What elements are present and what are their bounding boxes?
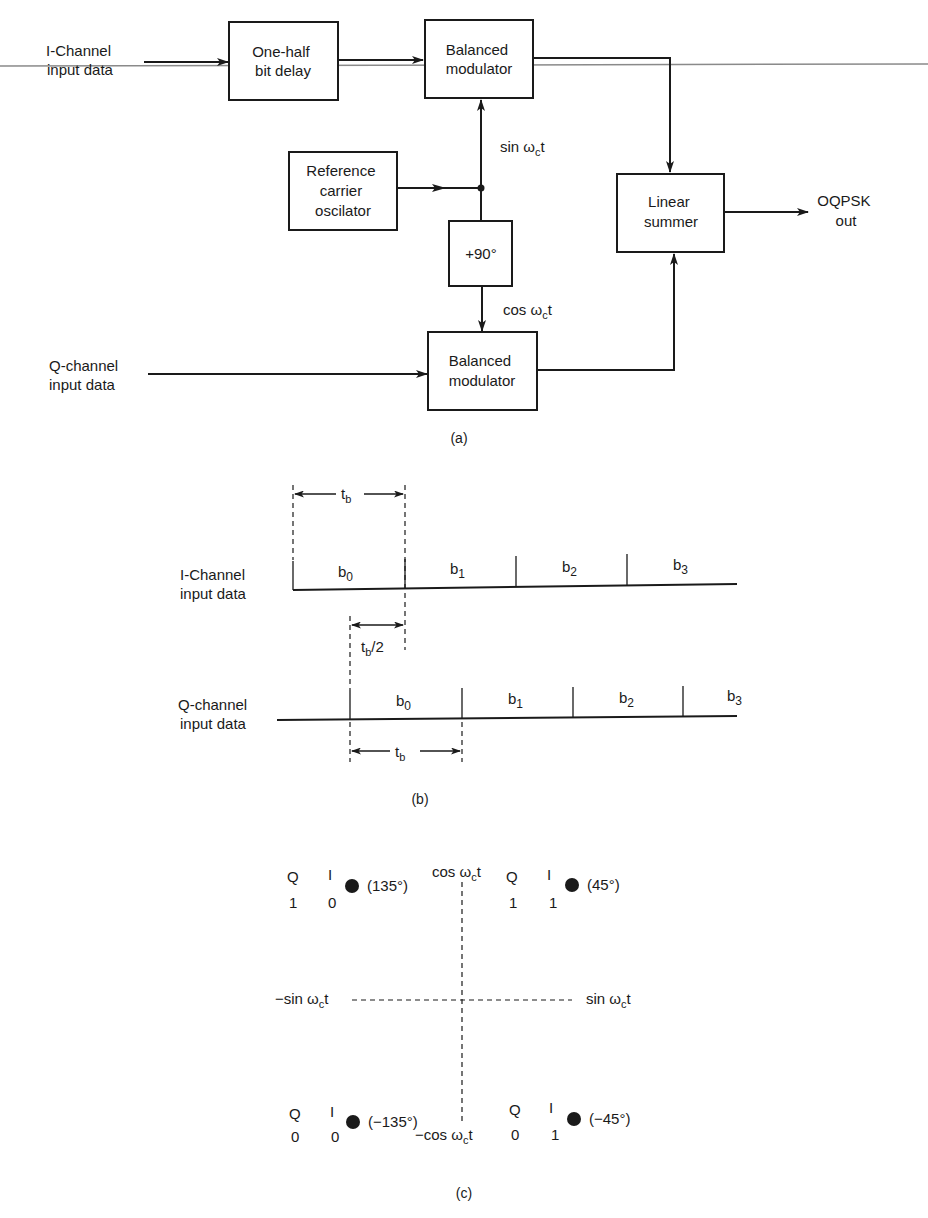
dot-icon [346,1115,360,1129]
balanced-modulator-top-block [425,20,533,98]
block-diagram-a: I-Channel input data One-half bit delay … [46,20,875,446]
q-channel-input-label: Q-channel input data [49,357,122,393]
constellation-point-45: Q I 1 1 (45°) [506,866,620,911]
q-channel-baseline [277,716,737,720]
tb-bottom-label: tb [395,743,405,763]
q-bit-0: b0 [396,692,411,713]
timing-diagram-b: tb I-Channel input data b0 b1 b2 b3 tb/2… [178,485,742,807]
q-bit-2: b2 [619,689,634,710]
i-channel-baseline [293,584,737,590]
svg-text:1: 1 [551,1126,559,1143]
svg-text:I: I [547,866,551,883]
svg-text:0: 0 [328,894,336,911]
svg-text:I: I [549,1099,553,1116]
constellation-point-135: Q I 1 0 (135°) [287,866,408,911]
balanced-modulator-bottom-block [428,332,537,410]
q-channel-timing-label: Q-channel input data [178,696,251,732]
pos-sin-axis-label: sin ωct [586,990,632,1010]
oqpsk-figure: I-Channel input data One-half bit delay … [0,0,928,1218]
q-bit-3: b3 [727,687,742,708]
q-bit-1: b1 [508,690,523,711]
svg-text:1: 1 [289,894,297,911]
cos-carrier-label: cos ωct [503,301,553,321]
half-bit-delay-block [229,22,338,100]
svg-text:I: I [330,1103,334,1120]
i-bit-3: b3 [673,556,688,577]
constellation-point-neg45: Q I 0 1 (−45°) [509,1099,630,1143]
caption-c: (c) [456,1185,472,1201]
oqpsk-out-label: OQPSK out [817,192,875,229]
svg-text:(45°): (45°) [587,876,620,893]
svg-text:I: I [328,866,332,883]
svg-text:Q: Q [289,1105,301,1122]
dot-icon [567,1112,581,1126]
dot-icon [565,878,579,892]
svg-text:Q: Q [509,1101,521,1118]
neg-sin-axis-label: −sin ωct [275,990,329,1010]
svg-text:(−45°): (−45°) [589,1110,630,1127]
i-bit-1: b1 [450,560,465,581]
constellation-c: cos ωct −cos ωct sin ωct −sin ωct Q I 1 … [275,863,632,1201]
svg-text:1: 1 [509,894,517,911]
caption-b: (b) [411,791,428,807]
phase-shift-label: +90° [465,245,496,262]
i-channel-timing-label: I-Channel input data [180,566,249,602]
i-channel-input-label: I-Channel input data [46,42,115,78]
pos-cos-axis-label: cos ωct [432,863,482,883]
caption-a: (a) [450,430,467,446]
svg-text:0: 0 [511,1126,519,1143]
sin-carrier-label: sin ωct [500,138,546,158]
svg-text:(135°): (135°) [367,877,408,894]
svg-text:(−135°): (−135°) [368,1113,418,1130]
bottom-modulator-to-summer-wire [537,254,674,370]
half-tb-label: tb/2 [361,638,384,658]
svg-text:Q: Q [287,868,299,885]
neg-cos-axis-label: −cos ωct [415,1126,473,1146]
tb-top-label: tb [341,485,351,505]
dot-icon [345,879,359,893]
top-modulator-to-summer-wire [533,58,670,172]
svg-text:1: 1 [549,894,557,911]
svg-text:0: 0 [291,1128,299,1145]
svg-text:Q: Q [506,868,518,885]
i-bit-2: b2 [562,558,577,579]
constellation-point-neg135: Q I 0 0 (−135°) [289,1103,418,1145]
i-bit-0: b0 [338,563,353,584]
svg-text:0: 0 [331,1128,339,1145]
